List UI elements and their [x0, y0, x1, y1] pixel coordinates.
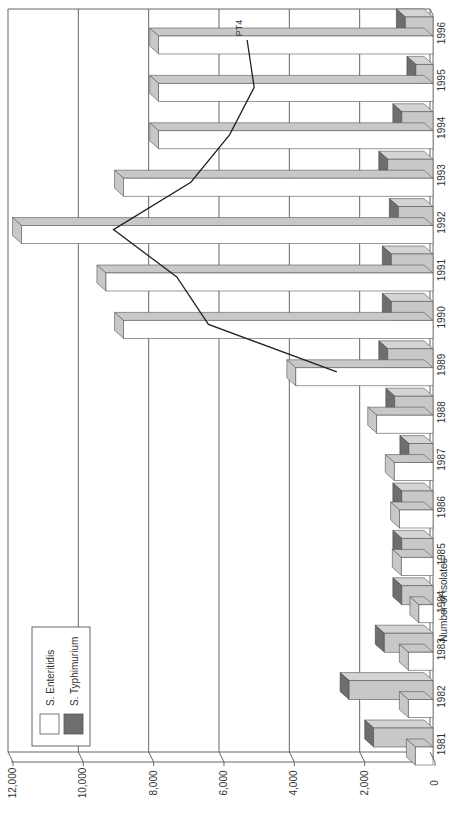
- bar-enteritidis-1983: [399, 644, 433, 670]
- bar-enteritidis-1987: [385, 455, 433, 481]
- legend: S. EnteritidisS. Typhimurium: [32, 627, 90, 746]
- year-label: 1990: [436, 306, 447, 329]
- year-label: 1993: [436, 164, 447, 187]
- year-label: 1989: [436, 353, 447, 376]
- year-label: 1992: [436, 211, 447, 234]
- year-label: 1995: [436, 69, 447, 92]
- tick-label: 6,000: [218, 770, 229, 795]
- category-axis: 1981198219831984198519861987198819891990…: [436, 21, 447, 755]
- bar-enteritidis-1996: [150, 28, 433, 54]
- bar-enteritidis-1990: [115, 312, 433, 338]
- tick-label: 2,000: [359, 770, 370, 795]
- bar-enteritidis-1991: [97, 265, 433, 291]
- year-label: 1994: [436, 116, 447, 139]
- bar-enteritidis-1989: [287, 360, 433, 386]
- tick-label: 8,000: [148, 770, 159, 795]
- year-label: 1981: [436, 732, 447, 755]
- legend-swatch: [40, 714, 59, 734]
- bar-enteritidis-1982: [399, 692, 433, 718]
- bar-enteritidis-1995: [150, 75, 433, 101]
- tick-label: 10,000: [77, 767, 88, 798]
- bar-enteritidis-1986: [391, 502, 433, 528]
- bar-enteritidis-1988: [368, 407, 433, 433]
- legend-label: S. Typhimurium: [69, 637, 80, 706]
- year-label: 1982: [436, 685, 447, 708]
- year-label: 1987: [436, 448, 447, 471]
- pt4-label: PT4: [234, 20, 244, 37]
- legend-label: S. Enteritidis: [45, 650, 56, 706]
- tick-label: 0: [429, 780, 440, 786]
- year-label: 1986: [436, 495, 447, 518]
- tick-label: 4,000: [288, 770, 299, 795]
- tick-label: 12,000: [7, 767, 18, 798]
- year-label: 1996: [436, 21, 447, 44]
- bar-enteritidis-1985: [392, 549, 433, 575]
- year-label: 1991: [436, 258, 447, 281]
- year-label: 1988: [436, 401, 447, 424]
- value-axis: 02,0004,0006,0008,00010,00012,000: [7, 752, 440, 798]
- chart: PT4 02,0004,0006,0008,00010,00012,000 19…: [0, 0, 457, 838]
- legend-swatch: [64, 714, 83, 734]
- bar-enteritidis-1993: [115, 170, 433, 196]
- bar-enteritidis-1992: [13, 218, 433, 244]
- axis-title: Number of isolates: [438, 558, 449, 641]
- bar-enteritidis-1994: [150, 123, 433, 149]
